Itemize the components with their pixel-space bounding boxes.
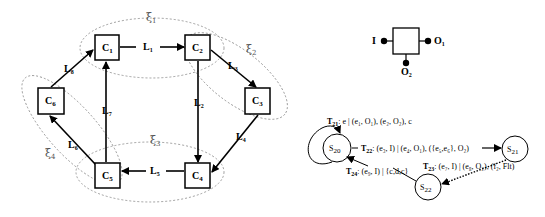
- link-label-L3: L3: [228, 60, 238, 72]
- output2-port-label: O2: [401, 66, 412, 78]
- link-label-L6: L6: [68, 139, 78, 151]
- diagram-canvas: C1 C2 C3 C4 C5 C6 L1 L2 L3 L4 L5 L6 L7 L…: [0, 0, 545, 217]
- group-label-xi4: ξ4: [45, 147, 56, 161]
- output1-port-icon: [425, 38, 431, 44]
- input-port-label: I: [372, 35, 376, 46]
- link-label-L8: L8: [64, 63, 74, 75]
- group-label-xi1: ξ1: [146, 11, 157, 25]
- output1-port-label: O1: [434, 35, 445, 47]
- transition-label-T24: T24: (e₉, I) | {c,d,c}: [346, 167, 408, 177]
- link-label-L7: L7: [102, 105, 112, 117]
- group-label-xi2: ξ2: [246, 43, 257, 57]
- transition-label-T21: T21: e | (e₁, O₁), (e₂, O₂), c: [327, 117, 412, 127]
- input-port-icon: [381, 38, 387, 44]
- link-L4: [212, 115, 258, 172]
- transition-label-T23: T23: (e₇, I) | (e₈, O₂), (f₂, Flt): [423, 162, 515, 172]
- group-label-xi3: ξ3: [150, 134, 161, 148]
- link-label-L2: L2: [194, 97, 204, 109]
- link-label-L5: L5: [150, 165, 160, 177]
- transition-label-T22: T22: (e₃, I) | (e₄, O₁), ({e₅,e₆}, O₂): [361, 144, 469, 154]
- link-label-L1: L1: [143, 41, 153, 53]
- component-symbol: [381, 28, 431, 66]
